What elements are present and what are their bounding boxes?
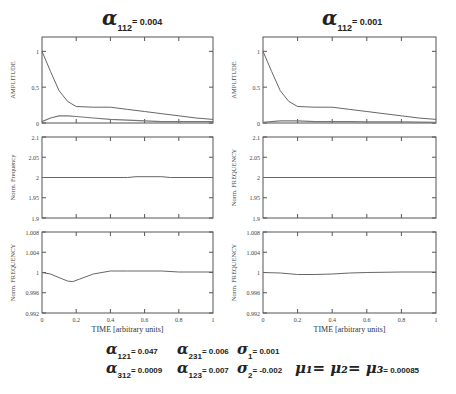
param-alpha-123: α123= 0.007	[177, 359, 229, 380]
parameters-legend: α121= 0.047 α231= 0.006 σ1= 0.001 α312= …	[0, 0, 456, 394]
param-alpha-231: α231= 0.006	[177, 340, 229, 361]
param-alpha-121: α121= 0.047	[106, 340, 158, 361]
param-sigma-2: σ2= -0.002	[237, 359, 282, 380]
param-sigma-1: σ1= 0.001	[237, 340, 279, 361]
param-mu: μ₁= μ₂= μ₃= 0.00085	[295, 359, 419, 380]
param-alpha-312: α312= 0.0009	[106, 359, 162, 380]
